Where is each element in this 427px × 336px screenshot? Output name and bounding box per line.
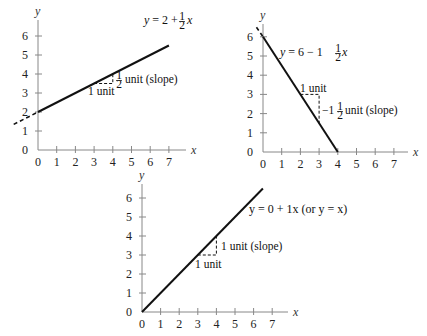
y-tick-label: 2 bbox=[126, 267, 132, 281]
y-tick-label: 0 bbox=[126, 305, 132, 319]
line-dashed-extension bbox=[256, 27, 263, 37]
run-label: 1 unit bbox=[300, 82, 327, 94]
chart-2-annotations: y = 6 − 112x1 unit−112unit (slope) bbox=[279, 42, 398, 121]
y-tick-label: 1 bbox=[22, 124, 28, 138]
y-tick-label: 3 bbox=[247, 87, 253, 101]
x-tick-label: 4 bbox=[213, 317, 219, 331]
y-tick-label: 6 bbox=[247, 30, 253, 44]
y-tick-label: 1 bbox=[126, 286, 132, 300]
x-tick-label: 6 bbox=[251, 317, 257, 331]
x-tick-label: 6 bbox=[147, 155, 153, 169]
x-tick-label: 3 bbox=[195, 317, 201, 331]
y-tick-label: 6 bbox=[126, 191, 132, 205]
y-tick-label: 6 bbox=[22, 29, 28, 43]
y-tick-label: 1 bbox=[247, 126, 253, 140]
y-tick-label: 0 bbox=[22, 143, 28, 157]
x-tick-label: 2 bbox=[297, 157, 303, 171]
x-tick-label: 1 bbox=[54, 155, 60, 169]
x-tick-label: 2 bbox=[72, 155, 78, 169]
rise-label: unit (slope) bbox=[125, 73, 178, 86]
y-tick-label: 5 bbox=[126, 210, 132, 224]
y-tick-label: 5 bbox=[22, 48, 28, 62]
y-tick-label: 0 bbox=[247, 145, 253, 159]
run-label: 1 unit bbox=[195, 258, 222, 270]
x-tick-label: 5 bbox=[232, 317, 238, 331]
x-tick-label: 0 bbox=[260, 157, 266, 171]
y-tick-label: 3 bbox=[126, 248, 132, 262]
rise-label: 1 unit (slope) bbox=[221, 240, 282, 253]
y-axis-label: y bbox=[34, 4, 41, 18]
x-axis-label: x bbox=[412, 145, 419, 159]
eq-fraction-denominator: 2 bbox=[179, 19, 185, 31]
chart-1-annotations: y = 2 + 12x12unit (slope)1 unit bbox=[88, 10, 193, 97]
y-tick-label: 5 bbox=[247, 49, 253, 63]
y-tick-label: 4 bbox=[126, 229, 132, 243]
x-tick-label: 7 bbox=[166, 155, 172, 169]
equation-label: y = 6 − 1 bbox=[279, 45, 323, 59]
equation-label: y = 0 + 1x (or y = x) bbox=[249, 202, 347, 216]
x-tick-label: 1 bbox=[158, 317, 164, 331]
x-tick-label: 3 bbox=[316, 157, 322, 171]
chart-2: xy012345670123456 bbox=[247, 8, 419, 171]
y-axis-label: y bbox=[259, 8, 266, 22]
rise-fraction-denominator: 2 bbox=[116, 78, 122, 90]
run-label: 1 unit bbox=[88, 85, 115, 97]
x-tick-label: 4 bbox=[110, 155, 116, 169]
x-tick-label: 3 bbox=[91, 155, 97, 169]
x-tick-label: 2 bbox=[176, 317, 182, 331]
x-tick-label: 7 bbox=[391, 157, 397, 171]
x-tick-label: 0 bbox=[35, 155, 41, 169]
x-tick-label: 7 bbox=[269, 317, 275, 331]
x-axis-label: x bbox=[292, 305, 299, 319]
x-tick-label: 0 bbox=[139, 317, 145, 331]
equation-variable: x bbox=[341, 45, 348, 59]
x-tick-label: 6 bbox=[372, 157, 378, 171]
rise-label: unit (slope) bbox=[345, 104, 398, 117]
equation-label: y = 2 + bbox=[143, 13, 178, 27]
eq-fraction-denominator: 2 bbox=[335, 51, 341, 63]
y-tick-label: 3 bbox=[22, 86, 28, 100]
y-tick-label: 4 bbox=[247, 68, 253, 82]
y-axis-label: y bbox=[138, 168, 145, 182]
rise-fraction-denominator: 2 bbox=[337, 109, 343, 121]
x-tick-label: 1 bbox=[279, 157, 285, 171]
y-tick-label: 4 bbox=[22, 67, 28, 81]
x-axis-label: x bbox=[190, 143, 197, 157]
x-tick-label: 4 bbox=[335, 157, 341, 171]
x-tick-label: 5 bbox=[354, 157, 360, 171]
x-tick-label: 5 bbox=[129, 155, 135, 169]
rise-prefix: −1 bbox=[322, 104, 334, 116]
y-tick-label: 2 bbox=[247, 107, 253, 121]
slope-charts-figure: xy012345670123456xy012345670123456xy0123… bbox=[0, 0, 427, 336]
chart-3-annotations: y = 0 + 1x (or y = x)1 unit (slope)1 uni… bbox=[195, 202, 347, 270]
equation-variable: x bbox=[186, 13, 193, 27]
